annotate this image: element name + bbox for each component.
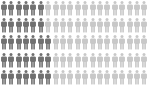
person-icon [60,70,66,85]
person-icon [141,70,147,85]
person-icon-highlighted [38,70,44,85]
person-icon-highlighted [16,35,22,50]
person-icon [82,18,88,33]
person-icon [53,1,59,16]
person-icon [45,18,51,33]
person-icon-highlighted [23,35,29,50]
person-icon-highlighted [16,53,22,68]
person-icon [112,1,118,16]
person-icon-highlighted [45,70,51,85]
pictogram-row [0,0,148,17]
person-icon [134,35,140,50]
person-icon-highlighted [23,18,29,33]
person-icon-highlighted [1,1,7,16]
person-icon [82,35,88,50]
pictogram-row [0,17,148,34]
person-icon [127,1,133,16]
person-icon [60,18,66,33]
person-icon [97,35,103,50]
person-icon-highlighted [38,1,44,16]
person-icon [45,1,51,16]
person-icon [112,53,118,68]
person-icon-highlighted [8,35,14,50]
person-icon [97,1,103,16]
person-icon [90,53,96,68]
person-icon [112,35,118,50]
person-icon [134,70,140,85]
person-icon-highlighted [1,53,7,68]
person-icon-highlighted [1,35,7,50]
person-icon [119,18,125,33]
person-icon-highlighted [8,1,14,16]
person-icon-highlighted [30,18,36,33]
person-icon [75,53,81,68]
person-icon [60,35,66,50]
person-icon [53,35,59,50]
person-icon [67,70,73,85]
person-icon-highlighted [8,53,14,68]
person-icon [134,18,140,33]
isotype-chart [0,0,148,86]
person-icon [75,1,81,16]
person-icon [53,18,59,33]
person-icon-highlighted [16,70,22,85]
person-icon [104,1,110,16]
person-icon [134,53,140,68]
person-icon [75,35,81,50]
person-icon [119,70,125,85]
person-icon [104,53,110,68]
person-icon [141,53,147,68]
person-icon [134,1,140,16]
person-icon [141,18,147,33]
pictogram-row [0,69,148,86]
person-icon-highlighted [30,35,36,50]
pictogram-row [0,34,148,51]
person-icon-highlighted [38,35,44,50]
person-icon [82,53,88,68]
person-icon-highlighted [8,70,14,85]
person-icon-highlighted [30,1,36,16]
person-icon [82,70,88,85]
person-icon [60,53,66,68]
person-icon [127,35,133,50]
person-icon-highlighted [23,53,29,68]
person-icon [127,18,133,33]
person-icon [141,1,147,16]
person-icon [75,70,81,85]
person-icon [67,53,73,68]
person-icon [82,1,88,16]
person-icon [104,18,110,33]
person-icon-highlighted [23,70,29,85]
person-icon [90,18,96,33]
person-icon [67,18,73,33]
person-icon-highlighted [45,53,51,68]
person-icon-highlighted [30,53,36,68]
person-icon [104,70,110,85]
person-icon [53,70,59,85]
person-icon [119,1,125,16]
pictogram-row [0,52,148,69]
person-icon [97,53,103,68]
person-icon [60,1,66,16]
person-icon [127,53,133,68]
person-icon [53,53,59,68]
person-icon [90,1,96,16]
person-icon [97,70,103,85]
person-icon [97,18,103,33]
person-icon [67,35,73,50]
person-icon-highlighted [16,18,22,33]
person-icon-highlighted [38,53,44,68]
person-icon [119,53,125,68]
person-icon [112,70,118,85]
person-icon-highlighted [23,1,29,16]
person-icon [75,18,81,33]
person-icon-highlighted [16,1,22,16]
person-icon [112,18,118,33]
person-icon [67,1,73,16]
person-icon-highlighted [38,18,44,33]
person-icon-highlighted [45,35,51,50]
person-icon [141,35,147,50]
person-icon [119,35,125,50]
person-icon-highlighted [1,18,7,33]
person-icon [90,70,96,85]
